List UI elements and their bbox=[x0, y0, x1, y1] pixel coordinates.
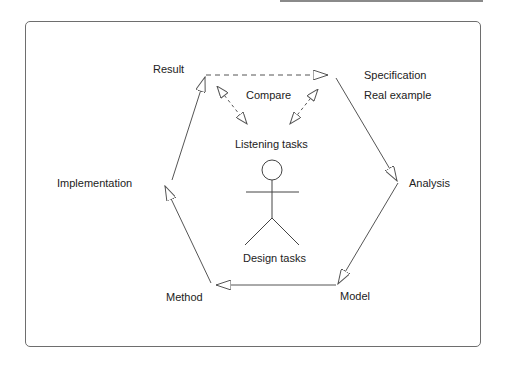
actor-right-leg bbox=[272, 218, 299, 245]
edge-listening-to-result bbox=[217, 86, 247, 124]
node-result: Result bbox=[153, 63, 184, 76]
edge-analysis-to-model bbox=[338, 183, 398, 284]
node-method: Method bbox=[166, 291, 203, 304]
label-design-tasks: Design tasks bbox=[243, 252, 306, 265]
node-implementation: Implementation bbox=[57, 177, 132, 190]
label-listening-tasks: Listening tasks bbox=[235, 138, 308, 151]
actor-left-leg bbox=[245, 218, 272, 245]
node-specification: Specification bbox=[364, 69, 426, 82]
node-real-example: Real example bbox=[364, 89, 431, 102]
node-model: Model bbox=[340, 290, 370, 303]
edge-implementation-to-result bbox=[172, 77, 205, 180]
label-compare: Compare bbox=[246, 89, 291, 102]
actor-head bbox=[262, 160, 282, 180]
edge-method-to-implementation bbox=[165, 186, 211, 283]
edge-listening-to-specification bbox=[290, 89, 318, 124]
node-analysis: Analysis bbox=[409, 177, 450, 190]
actor-figure-icon bbox=[245, 160, 299, 245]
